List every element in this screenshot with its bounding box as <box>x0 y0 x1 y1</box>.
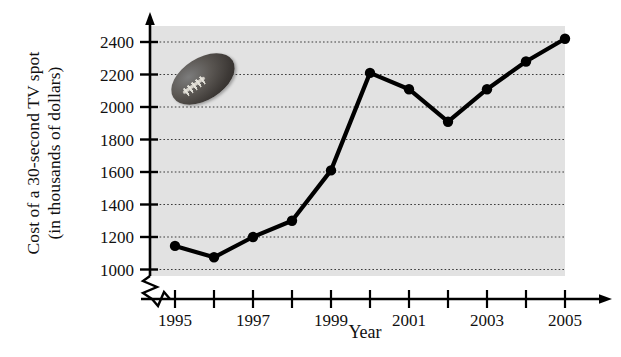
y-tick-label-2000: 2000 <box>66 99 134 116</box>
data-point-1995 <box>170 241 180 251</box>
data-point-2004 <box>521 56 531 66</box>
data-point-2000 <box>365 68 375 78</box>
data-point-1996 <box>209 252 219 262</box>
x-axis <box>141 294 612 304</box>
y-tick-label-2200: 2200 <box>66 67 134 84</box>
x-tick-label-1997: 1997 <box>218 312 288 329</box>
y-axis-title: Cost of a 30-second TV spot (in thousand… <box>23 13 65 293</box>
data-point-2001 <box>404 84 414 94</box>
data-point-2005 <box>560 34 570 44</box>
y-tick-label-1200: 1200 <box>66 229 134 246</box>
data-point-1998 <box>287 216 297 226</box>
x-tick-label-2005: 2005 <box>530 312 600 329</box>
data-point-1997 <box>248 232 258 242</box>
data-point-2002 <box>443 117 453 127</box>
y-tick-label-1400: 1400 <box>66 197 134 214</box>
data-point-1999 <box>326 165 336 175</box>
data-point-2003 <box>482 84 492 94</box>
x-axis-arrow-icon <box>599 294 612 304</box>
y-tick-label-1800: 1800 <box>66 132 134 149</box>
x-axis-title: Year <box>305 322 425 343</box>
y-tick-label-1600: 1600 <box>66 164 134 181</box>
y-axis-arrow-icon <box>145 12 155 25</box>
x-tick-label-1995: 1995 <box>140 312 210 329</box>
y-axis-break-icon <box>143 276 157 299</box>
y-tick-label-1000: 1000 <box>66 262 134 279</box>
line-chart-figure: 2400 2200 2000 1800 1600 1400 1200 1000 … <box>0 0 621 357</box>
x-tick-label-2003: 2003 <box>452 312 522 329</box>
y-tick-label-2400: 2400 <box>66 34 134 51</box>
